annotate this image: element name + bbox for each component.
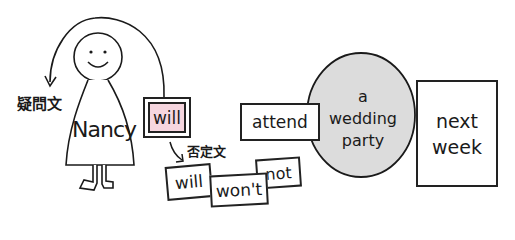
wont-chip: won't [209, 173, 269, 208]
time-chip-next-week: next week [416, 80, 498, 187]
will-chip-negative-text: will [174, 171, 204, 193]
verb-chip-attend: attend [240, 103, 320, 141]
will-chip-main-inner: will [148, 102, 186, 133]
time-chip-line2: week [432, 134, 482, 160]
will-chip-main: will [143, 97, 191, 138]
object-text: a wedding party [318, 86, 408, 152]
negative-label: 否定文 [187, 141, 226, 160]
nancy-eye-right [103, 50, 106, 53]
character-name: Nancy [72, 117, 136, 142]
nancy-leg-right [102, 165, 113, 188]
object-text-line1: a [318, 86, 408, 108]
time-chip-line1: next [436, 108, 478, 134]
nancy-head [74, 33, 122, 81]
object-text-line2: wedding [318, 108, 408, 130]
nancy-leg-left [80, 165, 97, 190]
will-chip-main-text: will [153, 108, 181, 128]
negative-arrow [170, 142, 182, 160]
wont-chip-text: won't [215, 179, 262, 201]
will-chip-negative: will [165, 163, 214, 201]
question-label: 疑問文 [17, 92, 62, 113]
object-text-line3: party [318, 130, 408, 152]
nancy-eye-left [89, 50, 92, 53]
verb-chip-text: attend [252, 112, 308, 132]
not-chip-text: not [265, 163, 292, 184]
nancy-figure [66, 33, 134, 190]
